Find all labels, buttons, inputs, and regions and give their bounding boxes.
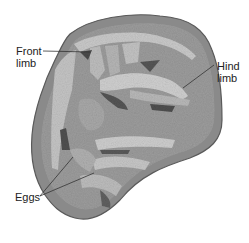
fossil-image xyxy=(0,0,249,243)
hind-limb-label: Hind limb xyxy=(217,60,240,84)
front-limb-label-line2: limb xyxy=(16,57,42,69)
hind-limb-label-line2: limb xyxy=(217,72,240,84)
hind-limb-label-line1: Hind xyxy=(217,60,240,72)
eggs-label: Eggs xyxy=(15,191,40,203)
fossil-figure: Front limb Hind limb Eggs xyxy=(0,0,249,243)
front-limb-label-line1: Front xyxy=(16,45,42,57)
front-limb-label: Front limb xyxy=(16,45,42,69)
